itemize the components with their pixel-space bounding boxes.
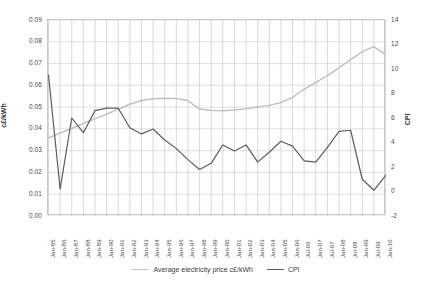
- series-line: [49, 47, 386, 138]
- y-axis-right-tick-label: 8: [391, 89, 417, 96]
- y-axis-right-tick-label: 12: [391, 40, 417, 47]
- x-axis-ticks: Jan-85Jan-86Jan-87Jan-88Jan-89Jan-90Jan-…: [47, 216, 385, 260]
- y-axis-right-tick-label: 14: [391, 16, 417, 23]
- y-axis-left-tick-label: 0.00: [18, 212, 42, 219]
- x-axis-tick-label: Jan-99: [212, 239, 219, 258]
- x-axis-tick-label: Jan-87: [73, 239, 80, 258]
- x-axis-tick-label: Jan-07: [317, 239, 324, 258]
- plot-area: [47, 19, 385, 215]
- y-axis-right-tick-label: 2: [391, 163, 417, 170]
- x-axis-tick-label: Jan-91: [119, 239, 126, 258]
- x-axis-tick-label: Jan-96: [178, 239, 185, 258]
- series-line: [49, 75, 386, 190]
- legend-label-electricity: Average electricity price c£/kWh: [153, 266, 252, 273]
- y-axis-left-tick-label: 0.05: [18, 103, 42, 110]
- y-axis-left-tick-label: 0.06: [18, 81, 42, 88]
- x-axis-tick-label: Jan-10: [387, 239, 394, 258]
- x-axis-tick-label: Jan-03: [259, 239, 266, 258]
- y-axis-left-tick-label: 0.07: [18, 59, 42, 66]
- y-axis-right-tick-label: 10: [391, 65, 417, 72]
- y-axis-right-tick-label: 6: [391, 114, 417, 121]
- x-axis-tick-label: Jan-89: [96, 239, 103, 258]
- legend-item-electricity[interactable]: Average electricity price c£/kWh: [132, 266, 252, 273]
- x-axis-tick-label: Jan-06: [294, 239, 301, 258]
- x-axis-tick-label: Jan-01: [236, 239, 243, 258]
- y-axis-left-tick-label: 0.04: [18, 124, 42, 131]
- y-axis-left-tick-label: 0.03: [18, 146, 42, 153]
- y-axis-right-tick-label: -2: [391, 212, 417, 219]
- x-axis-tick-label: Jan-86: [61, 239, 68, 258]
- x-axis-tick-label: Jan-05: [282, 239, 289, 258]
- y-axis-right-tick-label: 0: [391, 187, 417, 194]
- x-axis-tick-label: Jan-98: [201, 239, 208, 258]
- y-axis-left-tick-label: 0.01: [18, 190, 42, 197]
- x-axis-tick-label: Jan-08: [340, 239, 347, 258]
- y-axis-left-tick-label: 0.02: [18, 168, 42, 175]
- x-axis-tick-label: Jan-92: [131, 239, 138, 258]
- x-axis-tick-label: Jan-97: [189, 239, 196, 258]
- x-axis-tick-label: Jan-93: [143, 239, 150, 258]
- x-axis-tick-label: Jan-09: [363, 239, 370, 258]
- x-axis-tick-label: Jan-90: [108, 239, 115, 258]
- x-axis-tick-label: Jan-88: [85, 239, 92, 258]
- x-axis-tick-label: Jan-85: [50, 239, 57, 258]
- x-axis-tick-label: Jul-09: [375, 241, 382, 258]
- y-axis-right-tick-label: 4: [391, 138, 417, 145]
- chart-legend: Average electricity price c£/kWh CPI: [0, 262, 432, 276]
- x-axis-tick-label: Jul-08: [352, 241, 359, 258]
- legend-label-cpi: CPI: [288, 266, 300, 273]
- legend-item-cpi[interactable]: CPI: [267, 266, 300, 273]
- x-axis-tick-label: Jan-02: [247, 239, 254, 258]
- y-axis-left-tick-label: 0.08: [18, 37, 42, 44]
- x-axis-tick-label: Jul-07: [329, 241, 336, 258]
- legend-swatch-cpi: [267, 269, 284, 270]
- x-axis-tick-label: Jan-94: [154, 239, 161, 258]
- y-axis-left-tick-label: 0.09: [18, 16, 42, 23]
- x-axis-tick-label: Jan-04: [270, 239, 277, 258]
- series-lines: [48, 20, 386, 216]
- x-axis-tick-label: Jan-95: [166, 239, 173, 258]
- x-axis-tick-label: Jul-06: [305, 241, 312, 258]
- legend-swatch-electricity: [132, 269, 149, 270]
- x-axis-tick-label: Jan-00: [224, 239, 231, 258]
- chart-container: c£/kWh CPI 0.000.010.020.030.040.050.060…: [0, 0, 432, 289]
- y-axis-left-title: c£/kWh: [0, 103, 7, 128]
